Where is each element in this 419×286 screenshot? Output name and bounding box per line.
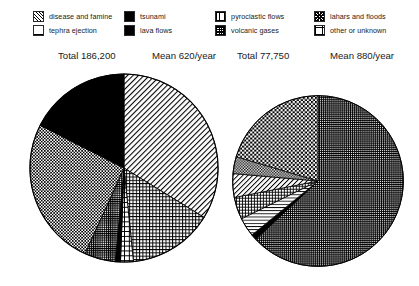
legend-item-pyroclastic-flows: pyroclastic flows — [215, 11, 314, 22]
legend-column-3: pyroclastic flows volcanic gases — [215, 11, 314, 41]
pie-right-slices — [233, 96, 404, 267]
legend-item-disease-and-famine: disease and famine — [33, 11, 124, 22]
chart-headings: Total 186,200 Mean 620/year Total 77,750… — [0, 50, 419, 66]
legend-column-4: lahars and floods other or unknown — [314, 11, 413, 41]
legend-label: lava flows — [140, 26, 172, 35]
legend-label: volcanic gases — [231, 26, 279, 35]
legend-swatch-checker-icon — [314, 11, 325, 22]
legend-label: lahars and floods — [330, 12, 386, 21]
legend-swatch-grid-icon — [215, 11, 226, 22]
legend-item-tephra-ejection: tephra ejection — [33, 25, 124, 36]
legend-item-lahars-and-floods: lahars and floods — [314, 11, 413, 22]
legend-swatch-dense-grid-icon — [215, 25, 226, 36]
pie-left-slices — [30, 74, 218, 262]
legend-swatch-fine-grid-icon — [33, 25, 44, 36]
legend-label: tsunami — [140, 12, 166, 21]
right-chart-mean: Mean 880/year — [330, 50, 394, 61]
pie-left-svg — [27, 71, 221, 265]
legend-column-1: disease and famine tephra ejection — [33, 11, 124, 41]
legend: disease and famine tephra ejection tsuna… — [33, 11, 413, 41]
legend-swatch-diagonal-hatch-icon — [33, 11, 44, 22]
legend-item-tsunami: tsunami — [124, 11, 215, 22]
right-chart-total: Total 77,750 — [237, 50, 289, 61]
legend-swatch-solid-black-icon — [124, 11, 135, 22]
legend-column-2: tsunami lava flows — [124, 11, 215, 41]
pie-chart-right — [230, 93, 406, 269]
legend-item-volcanic-gases: volcanic gases — [215, 25, 314, 36]
legend-label: disease and famine — [49, 12, 112, 21]
pie-right-svg — [230, 93, 406, 269]
legend-item-other-or-unknown: other or unknown — [314, 25, 413, 36]
left-chart-mean: Mean 620/year — [152, 50, 216, 61]
legend-swatch-big-grid-icon — [314, 25, 325, 36]
figure-root: disease and famine tephra ejection tsuna… — [0, 0, 419, 286]
legend-swatch-solid-black-icon — [124, 25, 135, 36]
left-chart-total: Total 186,200 — [58, 50, 116, 61]
legend-label: tephra ejection — [49, 26, 97, 35]
pie-chart-left — [27, 71, 221, 265]
legend-label: other or unknown — [330, 26, 386, 35]
legend-item-lava-flows: lava flows — [124, 25, 215, 36]
legend-label: pyroclastic flows — [231, 12, 284, 21]
